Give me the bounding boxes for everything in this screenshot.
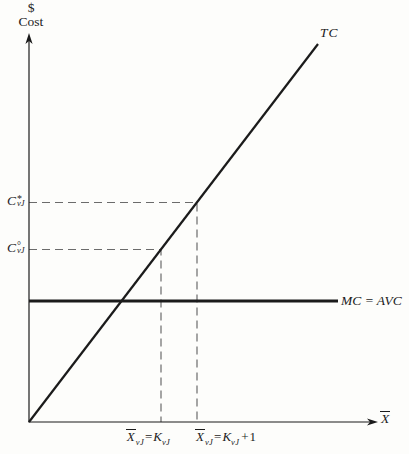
x-subscript: vJ xyxy=(205,437,213,447)
y-axis-title: $ Cost xyxy=(11,1,51,29)
cost-plot-canvas xyxy=(0,0,409,454)
c-star-subscript: vJ xyxy=(17,194,25,212)
mc-avc-curve-label: MC = AVC xyxy=(341,293,402,309)
cost-label: Cost xyxy=(11,15,51,29)
plus-one-suffix: +1 xyxy=(241,429,257,444)
k-symbol: K xyxy=(153,429,162,444)
c-star-base: C xyxy=(7,193,16,208)
x-mark-kvj-plus-1: XvJ=KvJ+1 xyxy=(178,429,274,450)
equals-sign: = xyxy=(214,429,221,444)
x-subscript: vJ xyxy=(136,437,144,447)
k-subscript: vJ xyxy=(231,437,239,447)
series-tc xyxy=(29,44,318,422)
k-symbol: K xyxy=(222,429,231,444)
k-subscript: vJ xyxy=(162,437,170,447)
equals-sign: = xyxy=(145,429,152,444)
dollar-sign-label: $ xyxy=(11,1,51,15)
c-circle-base: C xyxy=(7,240,16,255)
c-circle-scripts: °vJ xyxy=(16,240,27,257)
y-mark-c-circle: C°vJ xyxy=(0,239,27,257)
y-mark-c-star: C*vJ xyxy=(0,192,27,210)
c-star-scripts: *vJ xyxy=(16,193,27,210)
tc-curve-label: TC xyxy=(320,25,339,41)
cost-diagram: $ Cost TC MC = AVC C*vJ C°vJ XvJ=KvJ XvJ… xyxy=(0,0,409,454)
x-bar-symbol: X xyxy=(195,429,205,443)
x-axis-title: X xyxy=(380,411,390,427)
c-circle-subscript: vJ xyxy=(17,241,25,259)
x-bar-symbol: X xyxy=(126,429,136,443)
x-axis-bar-symbol: X xyxy=(380,411,390,426)
